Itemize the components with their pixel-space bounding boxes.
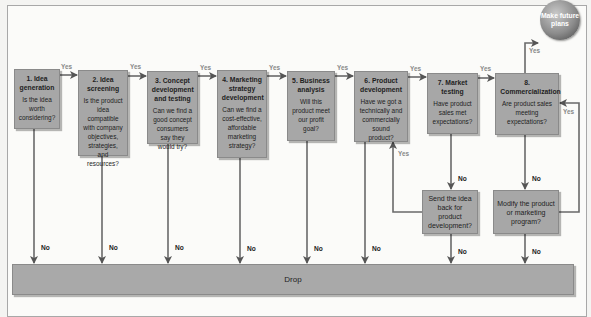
stage-box-product-development: 6. Product development Have we got a tec…: [354, 71, 408, 142]
yes-label: Yes: [529, 47, 540, 54]
stage-question: Have we got a technically and commercial…: [359, 97, 403, 142]
stage-question: Will this product meet our profit goal?: [292, 97, 331, 133]
make-future-plans-node: Make future plans: [540, 0, 580, 40]
no-label: No: [247, 245, 256, 252]
modify-product-box: Modify the product or marketing program?: [493, 190, 559, 234]
yes-label: Yes: [398, 150, 409, 157]
yes-label: Yes: [200, 64, 211, 71]
stage-title: 8. Commercialization: [500, 78, 553, 96]
stage-title: 4. Marketing strategy development: [222, 75, 262, 102]
no-label: No: [175, 244, 184, 251]
yes-label: Yes: [130, 63, 141, 70]
yes-label: Yes: [61, 63, 72, 70]
stage-box-marketing-strategy: 4. Marketing strategy development Can we…: [217, 70, 267, 158]
no-label: No: [109, 244, 118, 251]
stage-box-commercialization: 8. Commercialization Are product sales m…: [495, 73, 559, 135]
stage-title: 1. Idea generation: [19, 74, 56, 92]
yes-label: Yes: [480, 65, 491, 72]
stage-title: 2. Idea screening: [83, 75, 123, 93]
stage-question: Have product sales met expectations?: [432, 99, 473, 126]
no-label: No: [372, 245, 381, 252]
stage-box-business-analysis: 5. Business analysis Will this product m…: [287, 71, 335, 141]
yes-label: Yes: [337, 64, 348, 71]
stage-title: 3. Concept development and testing: [152, 76, 193, 103]
stage-box-concept-development: 3. Concept development and testing Can w…: [147, 71, 198, 144]
yes-label: Yes: [563, 108, 574, 115]
send-idea-back-box: Send the idea back for product developme…: [422, 190, 478, 234]
stage-title: 7. Market testing: [432, 78, 473, 96]
no-label: No: [314, 245, 323, 252]
stage-question: Can we find a good concept consumers say…: [152, 106, 193, 151]
stage-question: Is the idea worth considering?: [19, 95, 56, 122]
stage-title: 6. Product development: [359, 76, 403, 94]
stage-box-idea-generation: 1. Idea generation Is the idea worth con…: [14, 69, 60, 129]
stage-question: Can we find a cost-effective, affordable…: [222, 105, 262, 150]
no-label: No: [532, 175, 541, 182]
stage-question: Are product sales meeting expectations?: [500, 99, 553, 126]
no-label: No: [532, 248, 541, 255]
stage-question: Is the product idea compatible with comp…: [83, 96, 123, 168]
no-label: No: [41, 244, 50, 251]
yes-label: Yes: [410, 65, 421, 72]
drop-bar: Drop: [12, 264, 574, 295]
no-label: No: [458, 248, 467, 255]
stage-box-market-testing: 7. Market testing Have product sales met…: [427, 73, 478, 134]
no-label: No: [458, 175, 467, 182]
yes-label: Yes: [269, 64, 280, 71]
stage-title: 5. Business analysis: [292, 76, 331, 94]
stage-box-idea-screening: 2. Idea screening Is the product idea co…: [78, 70, 128, 156]
